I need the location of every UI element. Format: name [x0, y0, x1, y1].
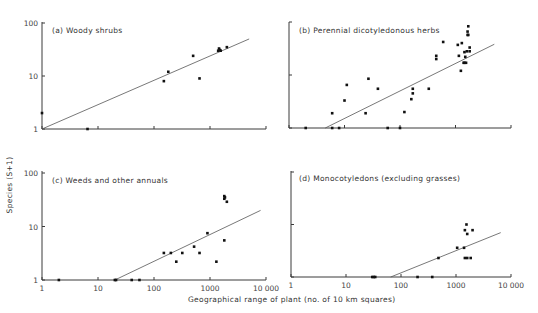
- data-point: [461, 42, 464, 45]
- data-point: [86, 128, 89, 131]
- axes: [289, 22, 511, 128]
- data-point: [458, 55, 461, 58]
- panel-title: (a) Woody shrubs: [52, 26, 123, 35]
- axes: [42, 171, 266, 280]
- data-point: [163, 252, 166, 255]
- regression-line: [115, 210, 261, 280]
- data-point: [427, 87, 430, 90]
- data-point: [226, 200, 229, 203]
- data-point: [410, 98, 413, 101]
- panel-d: 110100100010 000(d) Monocotyledons (excl…: [289, 171, 525, 290]
- data-point: [304, 127, 307, 130]
- panel-title: (b) Perennial dicotyledonous herbs: [299, 26, 440, 35]
- data-point: [224, 196, 227, 199]
- y-tick-label: 1: [33, 276, 38, 285]
- data-point: [386, 127, 389, 130]
- data-point: [466, 233, 469, 236]
- x-axis-title: Geographical range of plant (no. of 10 k…: [188, 295, 395, 304]
- axes: [42, 22, 266, 129]
- data-point: [403, 111, 406, 114]
- data-point: [466, 50, 469, 53]
- data-point: [435, 58, 438, 61]
- data-point: [411, 87, 414, 90]
- data-point: [465, 61, 468, 64]
- x-tick-label: 10: [341, 281, 351, 290]
- data-point: [198, 77, 201, 80]
- data-point: [416, 276, 419, 279]
- data-point: [338, 127, 341, 130]
- data-point: [206, 232, 209, 235]
- panel-title: (d) Monocotyledons (excluding grasses): [299, 174, 460, 183]
- data-point: [469, 257, 472, 260]
- y-axis-title: Species (S+1): [5, 157, 14, 214]
- data-point: [163, 80, 166, 83]
- data-point: [467, 25, 470, 28]
- data-point: [464, 257, 467, 260]
- data-point: [175, 260, 178, 263]
- data-point: [58, 279, 61, 282]
- data-point: [466, 257, 469, 260]
- data-point: [463, 51, 466, 54]
- data-point: [463, 246, 466, 249]
- axes: [291, 171, 511, 277]
- y-tick-label: 10: [28, 72, 38, 81]
- x-tick-label: 10 000: [253, 284, 279, 293]
- data-point: [138, 279, 141, 282]
- data-point: [130, 279, 133, 282]
- data-point: [435, 55, 438, 58]
- data-point: [223, 239, 226, 242]
- x-tick-label: 1: [289, 281, 294, 290]
- data-point: [331, 127, 334, 130]
- regression-line: [391, 233, 501, 277]
- y-tick-label: 100: [24, 19, 39, 28]
- data-point: [464, 56, 467, 59]
- data-point: [198, 252, 201, 255]
- y-tick-label: 1: [33, 125, 38, 134]
- data-point: [467, 34, 470, 37]
- panel-c: 110100110100100010 000(c) Weeds and othe…: [24, 169, 280, 293]
- data-point: [399, 127, 402, 130]
- y-tick-label: 10: [28, 223, 38, 232]
- x-tick-label: 10: [93, 284, 103, 293]
- panel-b: (b) Perennial dicotyledonous herbs: [289, 22, 511, 129]
- data-point: [466, 30, 469, 33]
- regression-line: [42, 39, 249, 129]
- data-point: [170, 252, 173, 255]
- data-point: [468, 50, 471, 53]
- x-tick-label: 1: [40, 284, 45, 293]
- data-point: [192, 55, 195, 58]
- data-point: [456, 246, 459, 249]
- data-point: [215, 260, 218, 263]
- data-point: [374, 276, 377, 279]
- data-point: [471, 229, 474, 232]
- x-tick-label: 10 000: [498, 281, 524, 290]
- data-point: [465, 223, 468, 226]
- regression-line: [325, 44, 494, 128]
- data-point: [431, 276, 434, 279]
- data-point: [437, 257, 440, 260]
- data-point: [460, 70, 463, 73]
- data-point: [41, 112, 44, 115]
- data-point: [193, 245, 196, 248]
- data-point: [411, 92, 414, 95]
- data-point: [464, 229, 467, 232]
- data-point: [167, 71, 170, 74]
- x-tick-label: 1000: [446, 281, 465, 290]
- data-point: [367, 77, 370, 80]
- x-tick-label: 1000: [200, 284, 219, 293]
- data-point: [345, 84, 348, 87]
- panel-a: 110100(a) Woody shrubs: [24, 19, 266, 134]
- data-point: [226, 46, 229, 49]
- x-tick-label: 100: [394, 281, 409, 290]
- data-point: [364, 112, 367, 115]
- panel-title: (c) Weeds and other annuals: [52, 176, 168, 185]
- data-point: [219, 49, 222, 52]
- data-point: [115, 279, 118, 282]
- data-point: [468, 46, 471, 49]
- x-tick-label: 100: [147, 284, 162, 293]
- data-point: [181, 252, 184, 255]
- data-point: [343, 99, 346, 102]
- figure-canvas: 110100(a) Woody shrubs(b) Perennial dico…: [0, 0, 538, 313]
- data-point: [377, 87, 380, 90]
- data-point: [442, 41, 445, 44]
